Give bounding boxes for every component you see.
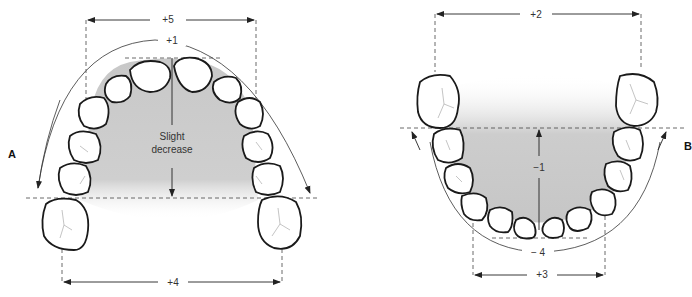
label-a-bottom-width: +4 [167, 277, 179, 288]
label-a-depth-line1: Slight [159, 131, 184, 142]
tooth [566, 207, 591, 231]
tooth [417, 75, 459, 128]
label-a-depth-line2: decrease [151, 144, 193, 155]
label-a-arch-perimeter: +1 [166, 35, 178, 46]
tooth [79, 97, 109, 129]
tooth [242, 131, 272, 162]
tooth [69, 131, 101, 163]
tooth [105, 76, 131, 103]
label-b-arch-perimeter: − 4 [531, 247, 546, 258]
tooth [604, 161, 631, 191]
panel-a-maxillary-arch: +5 +1 Slight decrease +4 A [8, 12, 318, 289]
tooth [59, 163, 91, 195]
panel-label-a: A [8, 148, 16, 160]
tooth [590, 189, 615, 215]
tooth [252, 163, 283, 195]
tooth [461, 193, 487, 220]
tooth [488, 207, 513, 232]
label-b-top-width: +2 [530, 9, 542, 20]
label-a-top-width: +5 [162, 14, 174, 25]
label-b-arch-depth: −1 [533, 162, 545, 173]
tooth [235, 98, 263, 129]
dental-arch-diagram: +5 +1 Slight decrease +4 A [0, 0, 692, 297]
panel-label-b: B [684, 140, 692, 152]
label-b-bottom-width: +3 [536, 269, 548, 280]
panel-b-mandibular-arch: +2 −1 − 4 +3 B [400, 7, 692, 281]
tooth [42, 199, 88, 250]
